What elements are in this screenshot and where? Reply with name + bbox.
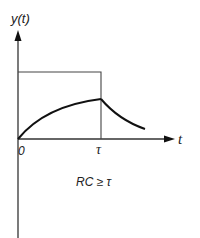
origin-label: 0 bbox=[18, 145, 25, 157]
tau-label: τ bbox=[96, 143, 101, 157]
condition-label: RC ≥ τ bbox=[76, 176, 111, 188]
x-axis-label: t bbox=[178, 132, 182, 147]
rc-response-diagram bbox=[0, 0, 200, 238]
charging-curve bbox=[18, 99, 101, 139]
y-axis-label: y(t) bbox=[11, 12, 30, 25]
y-axis-arrow-icon bbox=[15, 30, 22, 41]
x-axis-arrow-icon bbox=[164, 136, 175, 143]
input-pulse bbox=[18, 72, 101, 139]
discharge-curve bbox=[101, 99, 145, 129]
